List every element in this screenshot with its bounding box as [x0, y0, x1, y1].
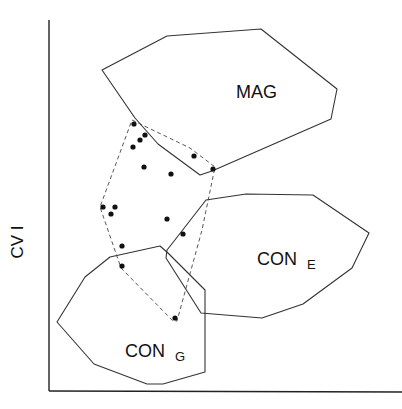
sample-hull [100, 120, 215, 321]
sample-point [172, 315, 177, 320]
sample-point [142, 132, 147, 137]
con-g-label: CON G [125, 341, 185, 364]
mag-label: MAG [236, 82, 277, 102]
sample-point [210, 166, 215, 171]
sample-point [168, 171, 173, 176]
mag-field [102, 29, 337, 175]
discriminant-diagram: MAG CON E CON G CV I [0, 0, 402, 409]
sample-point [164, 216, 169, 221]
sample-point [131, 121, 136, 126]
sample-point [180, 231, 185, 236]
y-axis-label: CV I [8, 225, 27, 258]
sample-point [130, 144, 135, 149]
x-axis [49, 391, 402, 392]
sample-point [108, 211, 113, 216]
con-e-label-subscript: E [307, 257, 316, 272]
con-g-label-main: CON [125, 341, 165, 361]
con-e-label-main: CON [257, 249, 297, 269]
sample-point [100, 204, 105, 209]
sample-point [191, 153, 196, 158]
sample-point [112, 204, 117, 209]
sample-point [119, 263, 124, 268]
con-g-label-subscript: G [175, 349, 185, 364]
con-e-label: CON E [257, 249, 316, 272]
sample-points [100, 121, 215, 320]
sample-point [119, 243, 124, 248]
sample-point [141, 164, 146, 169]
sample-point [137, 137, 142, 142]
